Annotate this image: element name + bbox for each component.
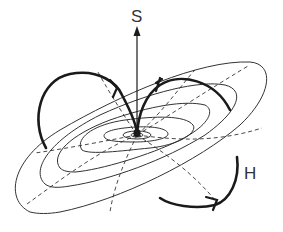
label-h: H bbox=[244, 165, 256, 182]
label-s: S bbox=[131, 8, 142, 25]
left-loop-arrowhead-icon bbox=[110, 80, 117, 97]
diagram-canvas bbox=[0, 0, 283, 232]
lower-arrowhead-icon bbox=[206, 197, 217, 210]
origin-point bbox=[134, 129, 141, 137]
contour-outer bbox=[15, 62, 266, 214]
left-field-loop bbox=[38, 73, 137, 148]
